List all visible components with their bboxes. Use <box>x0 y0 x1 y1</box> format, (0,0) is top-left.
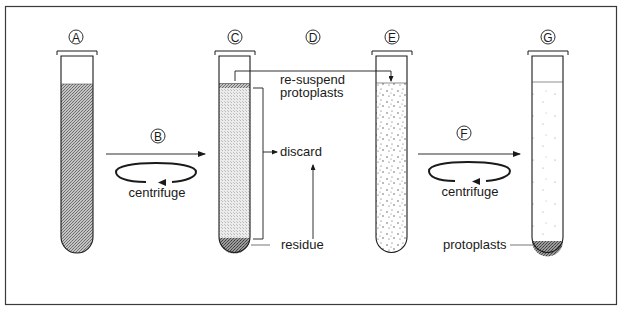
tube-e-suspension <box>376 83 407 252</box>
tube-g-supernatant <box>532 82 563 252</box>
step-d-resuspend: D re-suspend protoplasts <box>235 30 391 100</box>
tube-c: C <box>215 30 255 254</box>
tube-g: G <box>528 30 568 256</box>
step-g-letter: G <box>543 31 552 45</box>
resuspend-label-line2: protoplasts <box>280 85 344 100</box>
step-c-letter: C <box>231 31 240 45</box>
discard-bracket <box>253 88 263 239</box>
step-b-centrifuge: B centrifuge <box>106 129 205 200</box>
centrifuge-label-2: centrifuge <box>441 184 498 199</box>
residue-label: residue <box>281 237 324 252</box>
centrifuge-label-1: centrifuge <box>128 185 185 200</box>
tube-a-cap <box>57 51 97 55</box>
protoplast-isolation-diagram: A B centrifuge C discard residue D re-su… <box>0 0 620 312</box>
step-a-letter: A <box>72 31 80 45</box>
step-f-centrifuge: F centrifuge <box>418 126 520 199</box>
tube-c-protoplast-band <box>219 84 250 89</box>
step-f-letter: F <box>460 127 467 141</box>
tube-g-cap <box>528 51 568 55</box>
tube-e-cap <box>372 51 412 55</box>
protoplasts-label: protoplasts <box>443 237 507 252</box>
step-d-letter: D <box>309 31 318 45</box>
tube-a: A <box>57 30 97 253</box>
centrifuge-rotation-icon <box>116 163 196 182</box>
step-b-letter: B <box>154 130 162 144</box>
tube-c-supernatant <box>219 88 250 252</box>
tube-c-residue <box>219 238 250 254</box>
tube-e: E <box>372 30 412 252</box>
discard-label: discard <box>280 144 322 159</box>
tube-a-liquid <box>61 84 93 253</box>
tube-c-cap <box>215 51 255 55</box>
centrifuge-rotation-icon-2 <box>429 162 510 181</box>
step-e-letter: E <box>388 31 396 45</box>
